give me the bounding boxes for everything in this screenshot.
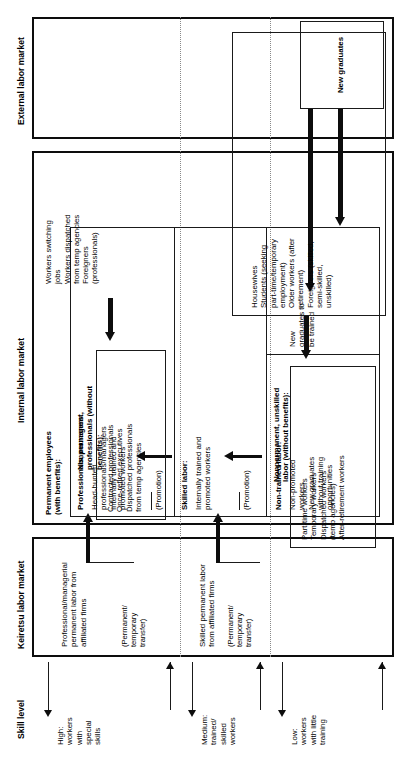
skill-high-arrowhead-bottom: [166, 662, 174, 669]
skill-high-line-top: [48, 662, 49, 710]
keiretsu-medium-arrow-shaft: [216, 519, 220, 563]
header-keiretsu-labor-market: Keiretsu labor market: [16, 561, 26, 649]
note-promotion-skilled: (Promotion): [242, 440, 251, 510]
keiretsu-medium-description: Skilled permanent labor from affiliated …: [198, 539, 217, 647]
internal-group-divider-2: [266, 227, 267, 517]
skill-medium-line-top: [192, 662, 193, 710]
label-skill-high: High: workers with special skills: [56, 661, 102, 745]
promotion-tick-professionals: [151, 492, 152, 510]
skill-low-line-top: [282, 662, 283, 710]
group-professionals-items: Head-hunted professionals/managers Inter…: [90, 340, 127, 510]
skill-low-arrowhead-bottom: [378, 662, 386, 669]
text-new-graduates: New graduates: [336, 25, 345, 105]
skill-high-arrowhead-top: [44, 710, 52, 717]
skill-low-arrowhead-top: [278, 710, 286, 717]
skill-medium-arrowhead-top: [188, 710, 196, 717]
skill-medium-line-bottom: [260, 662, 261, 710]
internal-group-divider-1: [174, 227, 175, 517]
arrow-to-untrained-head: [335, 217, 345, 226]
keiretsu-high-description: Professional/managerial permanent labor …: [60, 543, 88, 647]
labor-market-diagram-body: Skill level Keiretsu labor market Intern…: [8, 13, 408, 753]
keiretsu-high-transfer: (Permanent/ temporary transfer): [120, 577, 147, 647]
promotion-shaft-skilled-2: [232, 455, 262, 459]
group-skilled-heading: Skilled labor:: [180, 330, 189, 510]
group-nontrained-items: Non-promoted workers New graduates witho…: [288, 398, 334, 510]
group-skilled-items: Internally trained and promoted workers: [194, 340, 213, 510]
skill-medium-arrowhead-bottom: [256, 662, 264, 669]
keiretsu-high-arrow-shaft: [86, 519, 90, 563]
nontrained-side-divider: [266, 354, 380, 355]
promotion-shaft-professionals-2: [144, 455, 172, 459]
header-skill-level: Skill level: [16, 700, 26, 739]
label-skill-medium: Medium: trained/ skilled workers: [200, 661, 237, 745]
arrow-to-be-trained-head: [305, 283, 315, 292]
group-nontrained-heading: Non-trained labor:: [274, 330, 283, 510]
skill-high-line-bottom: [170, 662, 171, 710]
header-external-labor-market: External labor market: [16, 37, 26, 125]
label-skill-low: Low: workers with little training: [290, 657, 327, 745]
internal-permanent-heading: Permanent employees (with benefits):: [44, 387, 63, 515]
labor-market-figure: Skill level Keiretsu labor market Intern…: [0, 0, 416, 766]
group-professionals-heading: Professionals, managers:: [76, 330, 85, 510]
header-internal-labor-market: Internal labor market: [16, 338, 26, 423]
note-promotion-professionals: (Promotion): [154, 440, 163, 510]
arrow-to-untrained-shaft: [338, 109, 343, 217]
keiretsu-high-stem: [88, 562, 134, 563]
promotion-tick-skilled: [239, 492, 240, 510]
keiretsu-medium-transfer: (Permanent/ temporary transfer): [226, 577, 253, 647]
arrow-to-be-trained-shaft: [308, 109, 313, 283]
skill-low-line-bottom: [382, 662, 383, 710]
keiretsu-medium-stem: [218, 562, 260, 563]
